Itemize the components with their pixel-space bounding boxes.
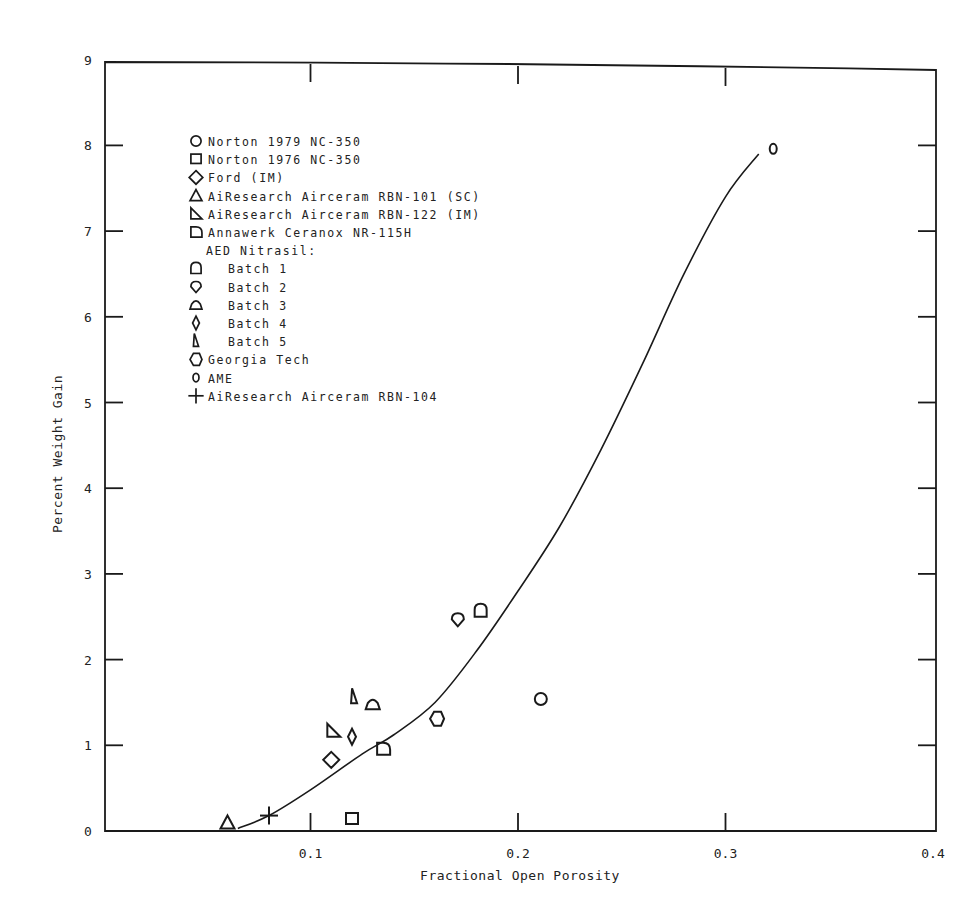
data-point-tall-diamond: AED Nitrasil Batch 4: (0.12, 1.1): [348, 729, 356, 745]
legend-item: Batch 3: [190, 299, 288, 313]
y-tick-label: 8: [84, 138, 92, 153]
legend-item: AiResearch Airceram RBN-104: [188, 388, 438, 404]
data-point-right-triangle: AiResearch Airceram RBN-122 (IM): (0.111…: [327, 724, 340, 737]
small-oval-icon: [193, 373, 199, 382]
data-point-rounded-diamond: AED Nitrasil Batch 2: (0.171, 2.47): [452, 613, 464, 626]
legend-label: AiResearch Airceram RBN-101 (SC): [208, 190, 481, 204]
legend-label: Norton 1976 NC-350: [208, 153, 361, 167]
y-tick-label: 3: [84, 567, 92, 582]
x-axis-title: Fractional Open Porosity: [420, 868, 620, 883]
legend-label: Batch 5: [228, 335, 288, 349]
legend-item: AME: [193, 372, 234, 386]
legend-item: Batch 4: [193, 316, 288, 331]
y-tick-label: 5: [84, 396, 92, 411]
dome-icon: [190, 301, 202, 309]
legend-item: Norton 1979 NC-350: [191, 135, 362, 149]
square-icon: [191, 154, 201, 163]
x-tick-label: 0.3: [714, 846, 737, 861]
legend-item: Annawerk Ceranox NR-115H: [191, 226, 413, 240]
legend: Norton 1979 NC-350Norton 1976 NC-350Ford…: [188, 135, 480, 404]
legend-label: AED Nitrasil:: [206, 244, 317, 258]
y-axis-title: Percent Weight Gain: [50, 375, 65, 533]
legend-label: AiResearch Airceram RBN-122 (IM): [208, 208, 481, 222]
legend-item: Ford (IM): [189, 171, 285, 186]
y-tick-label: 2: [84, 653, 92, 668]
legend-item: AED Nitrasil:: [206, 244, 317, 258]
legend-label: Ford (IM): [208, 171, 285, 185]
tall-triangle-icon: [193, 334, 198, 347]
rounded-diamond-icon: [191, 282, 201, 293]
legend-label: Batch 2: [228, 281, 288, 295]
legend-label: Annawerk Ceranox NR-115H: [208, 226, 413, 240]
legend-label: Norton 1979 NC-350: [208, 135, 361, 149]
triangle-icon: [190, 190, 202, 201]
data-point-small-oval: AME: (0.323, 7.96): [770, 144, 777, 154]
x-tick-label: 0.1: [299, 846, 322, 861]
y-tick-label: 9: [84, 53, 92, 68]
legend-item: AiResearch Airceram RBN-122 (IM): [191, 208, 481, 222]
y-tick-label: 7: [84, 224, 92, 239]
diamond-icon: [189, 171, 203, 185]
data-point-hexagon: Georgia Tech: (0.161, 1.31): [430, 712, 444, 726]
tall-diamond-icon: [193, 316, 200, 330]
right-triangle-icon: [191, 208, 202, 219]
data-point-square: Norton 1976 NC-350: (0.12, 0.14): [346, 813, 358, 824]
legend-item: Batch 1: [191, 262, 288, 276]
data-point-cross: AiResearch Airceram RBN-104: (0.08, 0.18…: [260, 807, 278, 825]
y-tick-label: 6: [84, 310, 92, 325]
rounded-top-square-icon: [191, 262, 201, 273]
legend-label: Batch 1: [228, 262, 288, 276]
legend-label: Georgia Tech: [208, 353, 310, 367]
y-tick-label: 0: [84, 824, 92, 839]
data-point-rounded-top-square: AED Nitrasil Batch 1: (0.182, 2.57): [475, 604, 487, 617]
data-point-dome: AED Nitrasil Batch 3: (0.13, 1.48): [366, 700, 380, 710]
legend-label: AiResearch Airceram RBN-104: [208, 390, 438, 404]
x-tick-label: 0.2: [506, 846, 529, 861]
circle-icon: [191, 136, 201, 146]
cross-icon: [188, 388, 203, 403]
y-tick-label: 4: [84, 481, 92, 496]
legend-label: Batch 4: [228, 317, 288, 331]
data-point-triangle: AiResearch Airceram RBN-101 (SC): (0.06,…: [221, 815, 235, 828]
x-axis-ticks: 0.10.20.30.4: [299, 64, 945, 861]
data-point-circle: Norton 1979 NC-350: (0.211, 1.54): [535, 693, 547, 705]
data-point-tall-triangle: AED Nitrasil Batch 5: (0.121, 1.56): [351, 688, 357, 703]
legend-label: Batch 3: [228, 299, 288, 313]
legend-item: Norton 1976 NC-350: [191, 153, 362, 167]
legend-item: Georgia Tech: [190, 353, 310, 367]
data-point-diamond: Ford (IM): (0.11, 0.83): [323, 752, 339, 768]
legend-item: Batch 5: [193, 334, 287, 350]
y-tick-label: 1: [84, 738, 92, 753]
legend-label: AME: [208, 372, 234, 386]
scatter-chart: 0.10.20.30.4 0123456789 Fractional Open …: [0, 0, 977, 921]
half-round-d-icon: [191, 227, 202, 237]
hexagon-icon: [190, 353, 202, 365]
x-tick-label: 0.4: [921, 846, 945, 861]
legend-item: AiResearch Airceram RBN-101 (SC): [190, 190, 481, 204]
legend-item: Batch 2: [191, 281, 288, 295]
